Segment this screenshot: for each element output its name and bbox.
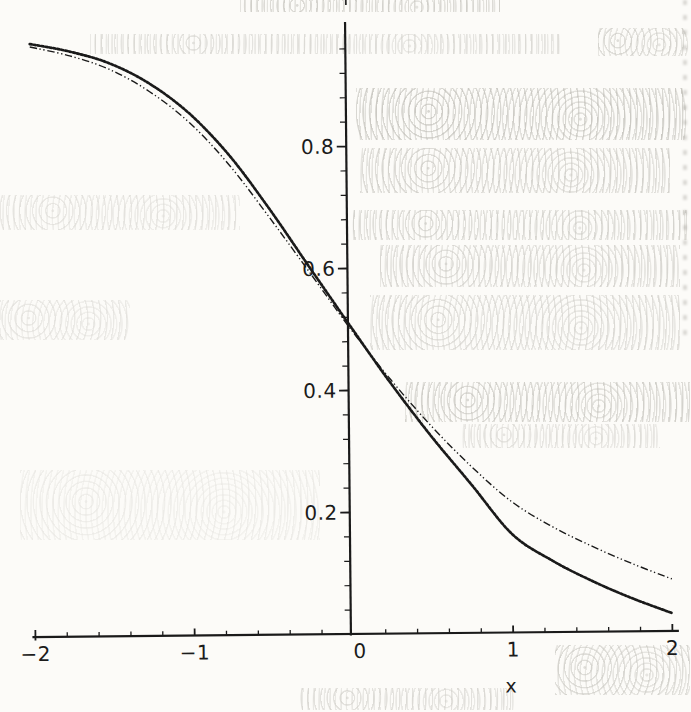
scanned-book-page: −2−10120.20.40.60.8 x	[0, 0, 691, 712]
y-tick-label: 0.8	[301, 135, 335, 159]
y-tick-label: 0.6	[302, 257, 336, 281]
x-tick-label: −1	[179, 640, 210, 664]
x-tick-label: 2	[666, 636, 679, 660]
curve-dash-dot-thin	[30, 41, 672, 585]
figure-two-sigmoid-curves: −2−10120.20.40.60.8 x	[0, 0, 691, 712]
x-tick-label: 0	[353, 639, 366, 663]
x-axis-line	[32, 631, 678, 637]
y-axis-line	[345, 22, 351, 635]
x-tick-label: −2	[20, 642, 51, 666]
axes	[26, 0, 679, 641]
x-axis-title: x	[505, 674, 516, 696]
y-tick-label: 0.2	[304, 501, 338, 525]
y-tick-label: 0.4	[303, 379, 337, 403]
x-tick-label: 1	[507, 637, 520, 661]
